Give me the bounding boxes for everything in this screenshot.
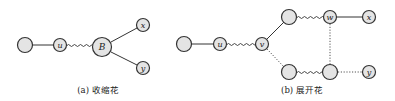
node-label-w: w [327,13,334,22]
node-label-v: v [260,40,265,49]
blossom-diagram: u B x y (a) 收缩花 u [0,0,395,101]
node-b-plain-left [177,37,192,52]
edge-b-u-v-wavy [227,44,257,46]
node-a-u: u [54,39,67,52]
node-label-B: B [98,42,106,52]
node-b-w: w [324,11,337,24]
node-b-v: v [256,38,269,51]
node-b-plain-bottom-right [323,65,338,80]
node-a-x: x [137,19,150,32]
node-label-u: u [217,40,222,49]
node-label-x: x [367,13,372,22]
caption-b: (b) 展开花 [281,85,323,95]
caption-a: (a) 收缩花 [77,85,118,95]
node-a-y: y [137,62,150,75]
edge-a-B-x [111,28,137,42]
panel-b: u v w x y (b) 展开花 [177,10,376,96]
node-label-y: y [140,64,146,73]
node-a-plain [18,38,33,53]
node-b-x: x [363,11,376,24]
node-label-u: u [57,41,62,50]
node-b-y: y [363,66,376,79]
edge-b-b1-b2-wavy [297,72,324,74]
edge-a-u-B-wavy [67,45,94,47]
panel-a: u B x y (a) 收缩花 [18,19,150,96]
edge-b-v-t1 [267,22,284,39]
node-label-y: y [366,68,372,77]
edge-b-v-b1 [267,49,284,67]
node-a-B: B [93,38,112,57]
node-b-u: u [214,38,227,51]
edge-a-B-y [111,52,137,65]
node-b-plain-top [282,10,297,25]
node-b-plain-bottom-left [282,65,297,80]
node-label-x: x [141,21,146,30]
edge-b-t1-w-wavy [297,17,327,19]
